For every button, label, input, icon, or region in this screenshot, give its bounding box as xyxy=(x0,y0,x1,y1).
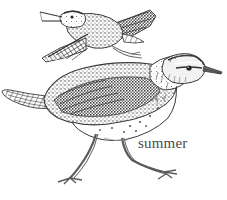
standing-bird-rear-foot xyxy=(58,178,82,184)
season-label: summer xyxy=(138,136,188,151)
standing-bird-rear-leg xyxy=(58,134,98,184)
standing-bird-figure xyxy=(2,54,222,184)
standing-bird-eye xyxy=(186,65,191,70)
flying-bird-legs xyxy=(112,46,134,57)
flying-bird-upper-mandible xyxy=(40,12,62,17)
flying-bird-figure xyxy=(40,10,156,62)
flying-bird-eye xyxy=(71,16,74,19)
sandpiper-illustration xyxy=(0,0,227,200)
illustration-plate: summer xyxy=(0,0,227,200)
